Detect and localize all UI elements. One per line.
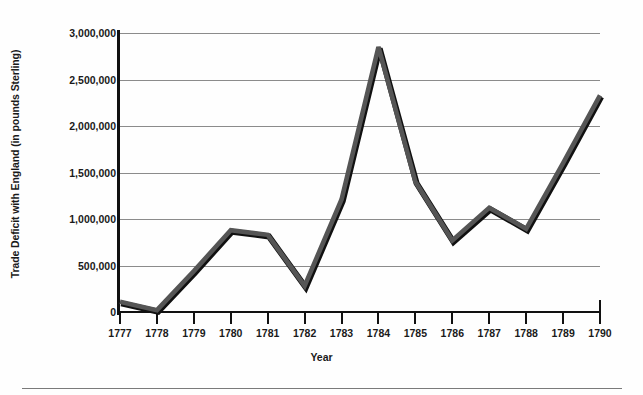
series-stroke	[120, 47, 600, 310]
x-axis-title: Year	[0, 351, 643, 363]
footer-divider	[22, 388, 622, 389]
chart-figure: Trade Deficit with England (in pounds St…	[0, 0, 643, 395]
data-series-line	[0, 0, 643, 395]
